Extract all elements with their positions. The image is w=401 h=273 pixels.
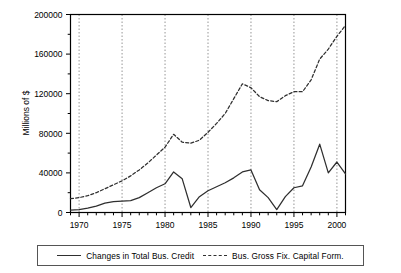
x-tick-label: 1970 [70,220,89,230]
y-tick-label: 120000 [34,89,63,99]
legend-item-bus-gross-fix-capital-form: Bus. Gross Fix. Capital Form. [203,251,344,261]
x-tick-label: 1985 [199,220,218,230]
y-tick-label: 80000 [39,129,63,139]
legend-label-0: Changes in Total Bus. Credit [86,251,194,261]
legend-line-solid-icon [57,255,81,257]
x-tick-label: 1990 [242,220,261,230]
chart-figure: 1970197519801985199019952000040000800001… [0,0,401,273]
chart-legend: Changes in Total Bus. Credit Bus. Gross … [37,245,364,266]
line-chart: 1970197519801985199019952000040000800001… [0,0,401,273]
x-tick-label: 1975 [113,220,132,230]
y-tick-label: 40000 [39,168,63,178]
y-tick-label: 160000 [34,49,63,59]
y-tick-label: 200000 [34,10,63,20]
x-tick-label: 2000 [327,220,346,230]
y-axis-ticks: 04000080000120000160000200000 [34,10,70,218]
legend-item-changes-in-total-bus-credit: Changes in Total Bus. Credit [57,251,194,261]
y-axis-title: Millions of $ [21,90,31,135]
x-axis-tick-labels: 1970197519801985199019952000 [70,220,347,230]
x-tick-label: 1995 [284,220,303,230]
legend-label-1: Bus. Gross Fix. Capital Form. [232,251,344,261]
legend-line-dashed-icon [203,255,227,257]
x-tick-label: 1980 [156,220,175,230]
y-tick-label: 0 [58,208,63,218]
x-axis-ticks [71,213,346,218]
y-axis-title-text: Millions of $ [21,90,31,135]
